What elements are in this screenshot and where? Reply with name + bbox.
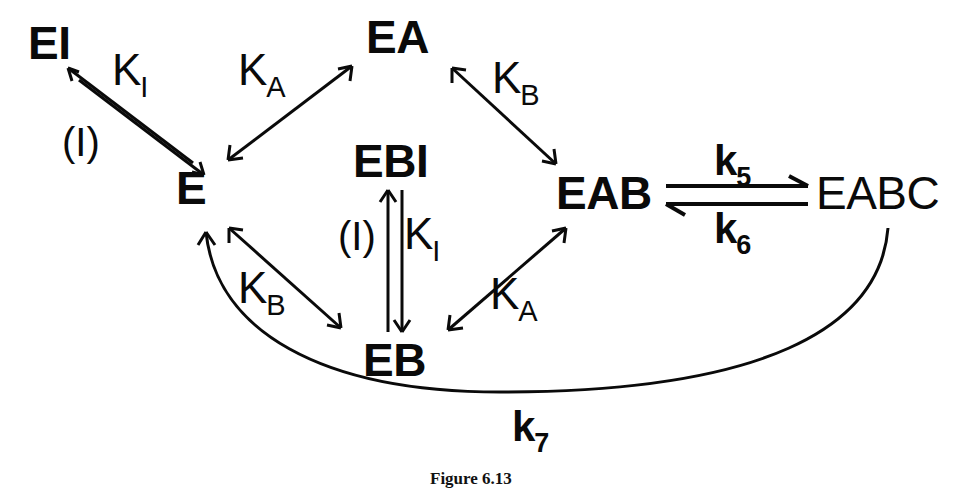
label-KA-bottom: KA bbox=[490, 272, 539, 318]
edge-EABC-E bbox=[198, 228, 888, 392]
label-k6: k6 bbox=[714, 208, 752, 252]
label-KB-bottom: KB bbox=[238, 266, 287, 312]
label-KI-top: KI bbox=[112, 48, 149, 94]
node-EB: EB bbox=[363, 337, 426, 383]
label-k7: k7 bbox=[512, 406, 550, 450]
label-inhibitor-top: (I) bbox=[62, 122, 100, 162]
figure-caption: Figure 6.13 bbox=[430, 470, 512, 487]
node-E: E bbox=[176, 165, 206, 211]
label-KA-top: KA bbox=[238, 48, 287, 94]
figure-container: EI E EA EBI EB EAB EABC KI (I) KA KB KI … bbox=[0, 0, 979, 499]
node-EAB: EAB bbox=[556, 170, 652, 216]
label-k5: k5 bbox=[714, 140, 752, 184]
label-inhibitor-mid: (I) bbox=[338, 216, 376, 256]
label-KI-mid: KI bbox=[404, 212, 441, 258]
node-EABC: EABC bbox=[816, 170, 939, 216]
node-EA: EA bbox=[366, 14, 429, 60]
node-EI: EI bbox=[28, 20, 70, 66]
label-KB-top: KB bbox=[492, 56, 541, 102]
node-EBI: EBI bbox=[353, 138, 428, 184]
